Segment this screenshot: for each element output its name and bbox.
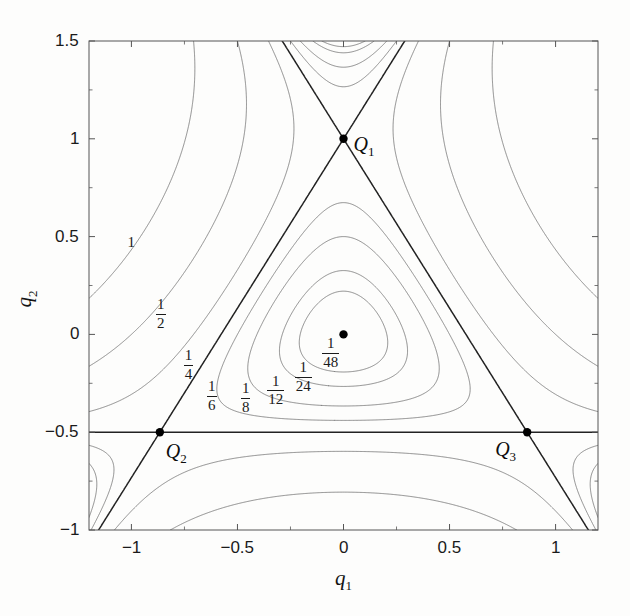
- y-axis-title: q2: [12, 291, 40, 308]
- contour-plot-figure: −1−0.500.511.510.50−0.5−1q1q2Q1Q2Q311214…: [0, 0, 630, 616]
- y-tick-label-4: −0.5: [45, 422, 79, 442]
- x-tick-label-4: 1: [551, 538, 560, 558]
- critical-point-marker-minimum: [339, 330, 347, 338]
- contour-line-1-12: [89, 463, 97, 517]
- contour-line-1-2: [441, 41, 598, 366]
- separatrix-contour: [89, 139, 598, 432]
- y-tick-label-2: 0.5: [55, 227, 79, 247]
- contour-line-1: [492, 41, 598, 298]
- critical-point-marker-q2: [156, 428, 164, 436]
- x-axis-title: q1: [335, 566, 352, 594]
- separatrix-contour: [282, 41, 404, 139]
- contour-line-1: [89, 41, 195, 298]
- contour-value-label-1-48: 148: [322, 336, 339, 371]
- contour-value-label-1-2: 12: [156, 297, 166, 332]
- critical-point-marker-q3: [523, 428, 531, 436]
- contour-line-1-12: [590, 463, 598, 517]
- contour-line-1-2: [89, 41, 246, 366]
- contour-value-label-1-4: 14: [184, 348, 194, 383]
- x-tick-label-2: 0: [339, 538, 348, 558]
- contour-value-label-1-24: 124: [295, 360, 312, 395]
- point-label-q3: Q3: [495, 438, 516, 465]
- point-label-q2: Q2: [166, 440, 187, 467]
- contour-value-label-1-8: 18: [241, 381, 251, 416]
- x-tick-label-3: 0.5: [438, 538, 462, 558]
- y-tick-label-3: 0: [70, 324, 79, 344]
- contour-value-label-1-12: 112: [267, 374, 284, 409]
- contour-line-1-4: [393, 41, 598, 412]
- plot-canvas: [0, 0, 630, 616]
- y-tick-label-5: −1: [60, 520, 79, 540]
- contour-value-label-1-6: 16: [207, 379, 217, 414]
- critical-point-marker-q1: [339, 135, 347, 143]
- contour-line-1-8: [573, 445, 598, 530]
- contour-value-label-1: 1: [127, 235, 135, 250]
- y-tick-label-1: 1: [70, 129, 79, 149]
- contour-line-1-8: [89, 445, 114, 530]
- y-tick-label-0: 1.5: [55, 31, 79, 51]
- point-label-q1: Q1: [354, 133, 375, 160]
- x-tick-label-0: −1: [122, 538, 141, 558]
- x-tick-label-1: −0.5: [220, 538, 254, 558]
